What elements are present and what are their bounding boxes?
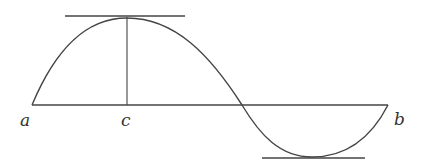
diagram-canvas: [0, 0, 427, 163]
label-b: b: [394, 111, 405, 128]
label-a: a: [20, 112, 30, 129]
function-curve: [32, 18, 388, 157]
label-c: c: [121, 112, 131, 129]
